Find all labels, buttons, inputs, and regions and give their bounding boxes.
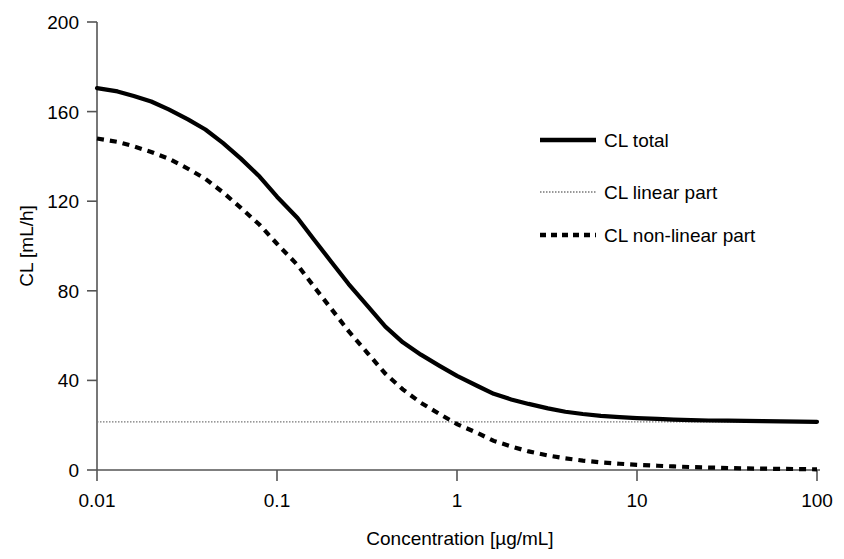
legend-label-cl-linear-part: CL linear part (604, 182, 718, 203)
y-tick-label-40: 40 (58, 370, 79, 391)
legend-label-cl-total: CL total (604, 130, 669, 151)
chart-svg: 0 40 80 120 160 200 0.01 0.1 1 10 100 CL… (0, 0, 844, 559)
y-axis-title: CL [mL/h] (16, 205, 37, 287)
x-tick-label-1: 1 (452, 490, 463, 511)
x-tick-label-100: 100 (801, 490, 833, 511)
x-tick-label-0.01: 0.01 (79, 490, 116, 511)
y-tick-label-200: 200 (47, 12, 79, 33)
chart-figure: 0 40 80 120 160 200 0.01 0.1 1 10 100 CL… (0, 0, 844, 559)
y-tick-label-80: 80 (58, 281, 79, 302)
y-tick-label-160: 160 (47, 102, 79, 123)
x-tick-label-0.1: 0.1 (264, 490, 290, 511)
x-tick-label-10: 10 (626, 490, 647, 511)
x-axis-title: Concentration [µg/mL] (366, 528, 553, 549)
legend-label-cl-non-linear-part: CL non-linear part (604, 225, 756, 246)
y-tick-label-0: 0 (68, 460, 79, 481)
y-tick-label-120: 120 (47, 191, 79, 212)
chart-background (0, 0, 844, 559)
